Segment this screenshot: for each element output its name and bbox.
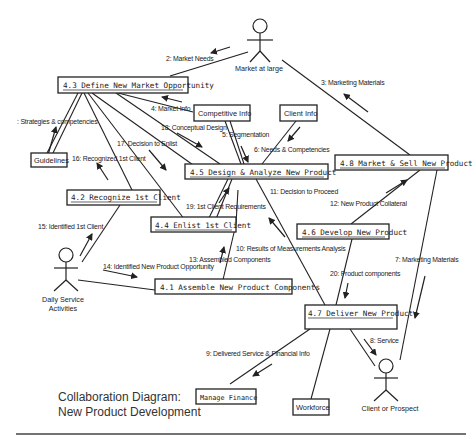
message-8: 8: Service: [370, 337, 399, 344]
process-label: Manage Finance: [200, 394, 257, 402]
message-16: 16: Recognized 1st Client: [72, 155, 146, 163]
process-label: 4.2 Recognize 1st Client: [71, 193, 181, 202]
process-label: 4.5 Design & Analyze New Product: [190, 168, 336, 177]
process-label: 4.7 Deliver New Product: [308, 309, 413, 318]
message-1: : Strategies & competencies: [17, 118, 98, 126]
collaboration-diagram: Market at large Daily Service Activities…: [0, 0, 475, 440]
process-4-7[interactable]: 4.7 Deliver New Product: [305, 305, 413, 329]
process-4-4[interactable]: 4.4 Enlist 1st Client: [151, 217, 251, 232]
process-label: 4.4 Enlist 1st Client: [155, 221, 251, 230]
message-2: 2: Market Needs: [166, 55, 214, 62]
process-4-1[interactable]: 4.1 Assemble New Product Components: [155, 279, 320, 294]
object-workforce[interactable]: Workforce: [293, 399, 330, 415]
actor-label: Market at large: [235, 64, 283, 73]
message-12: 12: New Product Collateral: [330, 200, 407, 207]
diagram-title: Collaboration Diagram: New Product Devel…: [58, 390, 201, 419]
message-7: 7: Marketing Materials: [395, 256, 459, 264]
process-4-2[interactable]: 4.2 Recognize 1st Client: [67, 190, 181, 205]
stick-figure-icon: [54, 248, 78, 291]
stick-figure-icon: [374, 359, 398, 401]
object-client-info[interactable]: Client Info: [280, 105, 317, 121]
object-competitive-info[interactable]: Competitive Info: [194, 105, 251, 121]
process-4-5[interactable]: 4.5 Design & Analyze New Product: [185, 164, 336, 179]
message-10: 10: Results of Measurements Analysis: [236, 245, 346, 253]
process-4-8[interactable]: 4.8 Market & Sell New Product: [335, 155, 473, 170]
actor-label: Activities: [49, 304, 78, 313]
actor-label: Client or Prospect: [361, 404, 418, 413]
object-label: Client Info: [284, 109, 317, 118]
process-label: 4.8 Market & Sell New Product: [340, 159, 473, 168]
object-label: Guidelines: [34, 156, 69, 165]
message-6: 6: Needs & Competencies: [254, 146, 330, 154]
process-4-6[interactable]: 4.6 Develop New Product: [297, 224, 407, 239]
title-line-1: Collaboration Diagram:: [58, 390, 181, 404]
actor-client-or-prospect: Client or Prospect: [361, 359, 418, 413]
message-15: 15: Identified 1st Client: [38, 223, 103, 230]
message-17: 17: Decision to Enlist: [117, 140, 177, 147]
message-14: 14: Identified New Product Opportunity: [103, 263, 215, 271]
actor-label: Daily Service: [42, 295, 84, 304]
message-9: 9: Delivered Service & Financial Info: [206, 350, 310, 357]
process-4-3[interactable]: 4.3 Define New Market Opportunity: [58, 77, 214, 93]
message-19: 19: 1st Client Requirements: [186, 203, 266, 211]
actor-market-at-large: Market at large: [235, 19, 283, 73]
actor-daily-service-activities: Daily Service Activities: [42, 248, 84, 313]
message-18: 18: Conceptual Design: [161, 124, 227, 132]
process-label: 4.6 Develop New Product: [302, 228, 407, 237]
stick-figure-icon: [247, 19, 273, 62]
object-label: Competitive Info: [198, 109, 251, 118]
message-3: 3: Marketing Materials: [321, 79, 385, 87]
object-label: Workforce: [296, 403, 330, 412]
process-manage-finance[interactable]: Manage Finance: [196, 389, 257, 404]
process-label: 4.1 Assemble New Product Components: [160, 283, 320, 292]
object-guidelines[interactable]: Guidelines: [31, 153, 69, 167]
message-5: 5: Segmentation: [222, 131, 270, 139]
message-11: 11: Decision to Proceed: [270, 188, 338, 195]
title-line-2: New Product Development: [58, 405, 201, 419]
message-4: 4: Market Info: [151, 105, 191, 112]
message-20: 20: Product components: [330, 270, 401, 278]
process-label: 4.3 Define New Market Opportunity: [63, 81, 214, 90]
